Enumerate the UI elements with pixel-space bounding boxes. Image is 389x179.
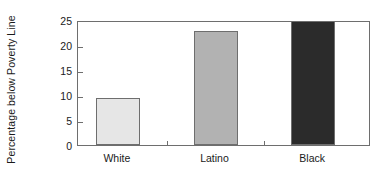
y-axis-tick-label: 5	[52, 116, 72, 127]
y-axis-tick-mark	[78, 47, 83, 48]
x-axis-tick-mark	[264, 141, 265, 145]
y-axis-tick-label: 25	[52, 16, 72, 27]
y-axis-tick-label: 10	[52, 91, 72, 102]
y-axis-title: Percentage below Poverty Line	[0, 0, 22, 179]
y-axis-tick-label: 0	[52, 141, 72, 152]
x-axis-label-white: White	[103, 152, 130, 164]
y-axis-tick-labels: 0510152025	[50, 0, 72, 179]
y-axis-tick-mark	[78, 122, 83, 123]
x-axis-tick-mark	[167, 141, 168, 145]
bar-latino	[194, 31, 238, 145]
y-axis-tick-mark	[78, 97, 83, 98]
y-axis-tick-label: 15	[52, 66, 72, 77]
bar-white	[96, 98, 140, 145]
x-axis-category-labels: WhiteLatinoBlack	[77, 152, 370, 168]
plot-area	[77, 21, 370, 146]
y-axis-tick-mark	[78, 72, 83, 73]
bar-black	[291, 21, 335, 145]
x-axis-label-black: Black	[299, 152, 325, 164]
poverty-bar-chart-figure: Percentage below Poverty Line 0510152025…	[0, 0, 389, 179]
y-axis-tick-label: 20	[52, 41, 72, 52]
x-axis-label-latino: Latino	[200, 152, 229, 164]
